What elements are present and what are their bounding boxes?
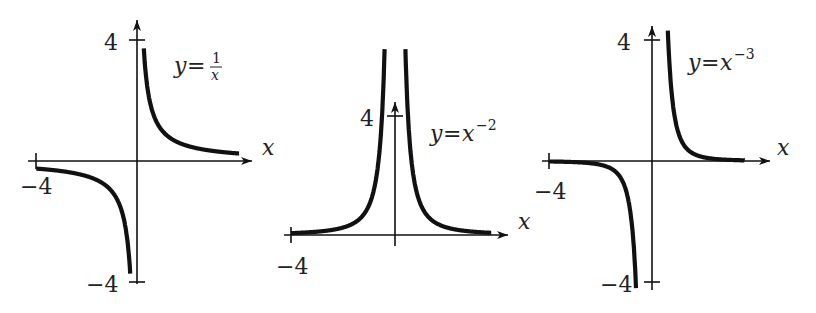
x-axis-label: x xyxy=(518,209,531,234)
svg-text:y: y xyxy=(687,50,701,75)
y-tick-label-4: 4 xyxy=(104,30,118,55)
svg-text:x: x xyxy=(211,67,219,83)
y-tick-label-neg4: −4 xyxy=(600,272,632,297)
y-tick-label-4: 4 xyxy=(617,30,631,55)
svg-text:=: = xyxy=(443,121,461,146)
function-label: y = 1 x xyxy=(173,50,222,83)
y-tick-label-neg4: −4 xyxy=(86,272,118,297)
x-tick-label-neg4: −4 xyxy=(534,179,566,204)
svg-text:y: y xyxy=(429,121,443,146)
x-axis-label: x xyxy=(777,135,790,160)
function-label: y = x −3 xyxy=(687,46,755,75)
svg-text:x: x xyxy=(720,50,733,75)
panel-reciprocal: 4 −4 −4 x y = 1 x xyxy=(20,20,275,297)
x-tick-label-neg4: −4 xyxy=(20,174,52,199)
svg-text:−3: −3 xyxy=(734,46,755,62)
x-axis-label: x xyxy=(262,135,275,160)
y-tick-label-4: 4 xyxy=(360,106,374,131)
curve-left-branch xyxy=(291,49,385,233)
svg-text:y: y xyxy=(173,53,187,78)
panel-inverse-cube: 4 −4 −4 x y = x −3 xyxy=(534,26,790,297)
svg-text:=: = xyxy=(701,50,719,75)
svg-text:x: x xyxy=(462,121,475,146)
x-tick-label-neg4: −4 xyxy=(276,254,308,279)
svg-text:1: 1 xyxy=(212,50,221,66)
function-label: y = x −2 xyxy=(429,117,497,146)
svg-text:−2: −2 xyxy=(476,117,497,133)
panel-inverse-square: 4 −4 x y = x −2 xyxy=(276,49,531,279)
svg-text:=: = xyxy=(187,53,205,78)
chart-canvas: 4 −4 −4 x y = 1 x 4 −4 x y = x −2 xyxy=(0,0,816,313)
